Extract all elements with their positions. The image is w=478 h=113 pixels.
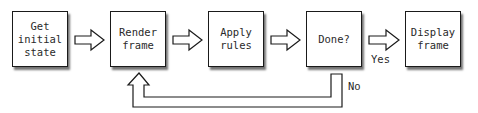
loop-back-arrow: [128, 73, 342, 107]
node-apply-rules: Apply rules: [208, 11, 264, 67]
node-display-frame: Display frame: [405, 11, 461, 67]
edge-label-no: No: [348, 80, 361, 92]
arrow-get-to-render: [75, 30, 104, 50]
node-get-initial-state: Get initial state: [12, 11, 68, 67]
arrow-render-to-apply: [173, 30, 202, 50]
arrow-apply-to-done: [271, 30, 300, 50]
node-render-frame: Render frame: [110, 11, 166, 67]
arrow-done-to-display: [369, 30, 399, 50]
node-done-decision: Done?: [306, 11, 362, 67]
edge-label-yes: Yes: [371, 53, 390, 65]
